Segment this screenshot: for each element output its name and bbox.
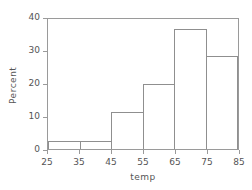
- x-tick-mark: [47, 150, 48, 154]
- histogram-bar: [174, 29, 207, 149]
- x-tick-mark: [111, 150, 112, 154]
- x-tick-label: 65: [169, 157, 180, 167]
- histogram-bar: [111, 112, 144, 149]
- histogram-bar: [206, 56, 239, 149]
- x-tick-mark: [207, 150, 208, 154]
- x-tick-label: 35: [73, 157, 84, 167]
- histogram-bar: [143, 84, 176, 149]
- x-tick-mark: [79, 150, 80, 154]
- y-tick-label: 0: [34, 144, 40, 154]
- y-tick-label: 40: [29, 12, 40, 22]
- histogram-bar: [80, 141, 113, 149]
- x-tick-mark: [175, 150, 176, 154]
- x-tick-label: 85: [233, 157, 244, 167]
- histogram-bar: [48, 141, 81, 149]
- x-tick-label: 25: [41, 157, 52, 167]
- x-tick-mark: [143, 150, 144, 154]
- x-tick-label: 45: [105, 157, 116, 167]
- y-tick-label: 30: [29, 45, 40, 55]
- x-tick-label: 55: [137, 157, 148, 167]
- histogram-chart: Percent 010203040 25354555657585 temp: [0, 0, 252, 190]
- bars-layer: [48, 19, 238, 149]
- y-tick-label: 10: [29, 111, 40, 121]
- plot-area: [47, 18, 239, 150]
- x-tick-label: 75: [201, 157, 212, 167]
- y-tick-label: 20: [29, 78, 40, 88]
- y-axis: 010203040: [0, 18, 47, 150]
- x-axis-title: temp: [47, 172, 239, 182]
- x-tick-mark: [239, 150, 240, 154]
